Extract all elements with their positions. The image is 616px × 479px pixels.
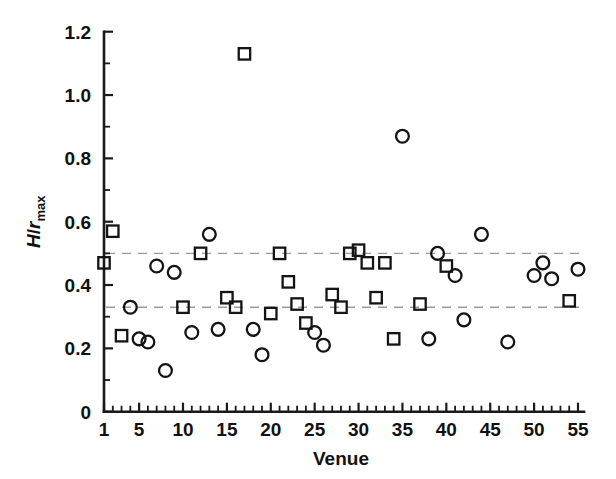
data-point-square bbox=[239, 48, 250, 59]
axes-group bbox=[104, 32, 584, 412]
data-point-square bbox=[116, 330, 127, 341]
y-axis-tick-label: 1.2 bbox=[65, 22, 91, 43]
data-point-circle bbox=[422, 332, 435, 345]
data-point-square bbox=[265, 308, 276, 319]
data-point-circle bbox=[528, 269, 541, 282]
y-axis-tick-label: 0.8 bbox=[65, 148, 91, 169]
data-point-circle bbox=[256, 348, 269, 361]
x-axis-tick-label: 15 bbox=[216, 419, 238, 440]
y-axis-tick-labels: 00.20.40.60.81.01.2 bbox=[65, 22, 92, 423]
x-axis-tick-label: 5 bbox=[134, 419, 145, 440]
data-point-circle bbox=[572, 263, 585, 276]
data-point-circle bbox=[449, 269, 462, 282]
data-point-circle bbox=[150, 260, 163, 273]
y-axis-tick-label: 0.4 bbox=[65, 275, 92, 296]
data-point-circle bbox=[545, 272, 558, 285]
data-point-circle bbox=[212, 323, 225, 336]
y-axis-tick-label: 0.6 bbox=[65, 212, 91, 233]
x-axis-tick-label: 45 bbox=[480, 419, 502, 440]
x-axis-tick-labels: 1510152025303540455055 bbox=[99, 419, 589, 440]
x-axis-tick-label: 35 bbox=[392, 419, 414, 440]
data-point-square bbox=[414, 298, 425, 309]
y-axis-title: H/rmax bbox=[23, 195, 48, 248]
x-axis-tick-label: 10 bbox=[172, 419, 193, 440]
series-squares bbox=[98, 48, 575, 344]
data-point-circle bbox=[475, 228, 488, 241]
y-axis-tick-label: 0.2 bbox=[65, 338, 91, 359]
data-point-square bbox=[327, 289, 338, 300]
data-point-square bbox=[362, 257, 373, 268]
data-point-square bbox=[370, 292, 381, 303]
x-axis-tick-label: 30 bbox=[348, 419, 369, 440]
data-point-circle bbox=[317, 339, 330, 352]
data-point-circle bbox=[168, 266, 181, 279]
data-point-square bbox=[107, 226, 118, 237]
x-axis-tick-label: 25 bbox=[304, 419, 326, 440]
data-point-square bbox=[379, 257, 390, 268]
axis-ticks-group bbox=[104, 32, 578, 412]
x-axis-tick-label: 1 bbox=[99, 419, 110, 440]
data-point-circle bbox=[457, 313, 470, 326]
data-point-square bbox=[564, 295, 575, 306]
x-axis-tick-label: 50 bbox=[524, 419, 545, 440]
data-point-circle bbox=[203, 228, 216, 241]
scatter-plot-figure: 00.20.40.60.81.01.2 15101520253035404550… bbox=[0, 0, 616, 479]
data-point-circle bbox=[247, 323, 260, 336]
data-point-circle bbox=[501, 336, 514, 349]
reference-lines-group bbox=[106, 253, 584, 307]
data-point-circle bbox=[396, 130, 409, 143]
data-point-circle bbox=[185, 326, 198, 339]
data-point-circle bbox=[159, 364, 172, 377]
data-point-square bbox=[291, 298, 302, 309]
data-point-square bbox=[388, 333, 399, 344]
data-point-square bbox=[283, 276, 294, 287]
x-axis-tick-label: 20 bbox=[260, 419, 281, 440]
x-axis-tick-label: 40 bbox=[436, 419, 457, 440]
plot-canvas: 00.20.40.60.81.01.2 15101520253035404550… bbox=[0, 0, 616, 479]
x-axis-title: Venue bbox=[313, 448, 369, 469]
x-axis-tick-label: 55 bbox=[567, 419, 589, 440]
y-axis-tick-label: 0 bbox=[80, 402, 91, 423]
data-point-circle bbox=[308, 326, 321, 339]
data-point-circle bbox=[536, 256, 549, 269]
y-axis-tick-label: 1.0 bbox=[65, 85, 91, 106]
data-markers-group bbox=[98, 48, 584, 377]
